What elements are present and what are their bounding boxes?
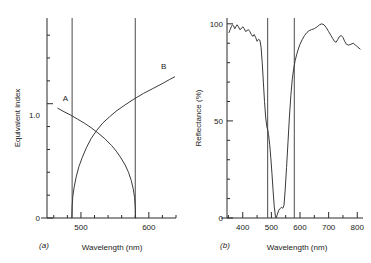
panel-a-ticks: 500600 [47, 35, 176, 232]
panel-b-ticks: 400500600700800050100 [210, 20, 365, 232]
x-tick-label: 500 [74, 223, 88, 232]
panel-b-axes [221, 18, 363, 218]
panel-b-vertical-lines [268, 18, 295, 218]
y-tick-label-0-a: 0 [36, 214, 41, 223]
x-tick-label: 800 [351, 223, 365, 232]
y-tick-label-1-a: 1.0 [29, 111, 41, 120]
panel-a-curves [58, 77, 175, 218]
panel-a-labels: AB [63, 62, 167, 103]
y-axis-title-b: Reflectance (%) [194, 89, 203, 146]
curve-annotation: B [161, 62, 166, 71]
panel-b-plot: 400500600700800050100 Wavelength (nm) Re… [185, 0, 371, 263]
y-axis-title-a: Equivalent index [13, 89, 22, 148]
panel-a-vertical-lines [72, 18, 135, 218]
figure-container: 500600 AB 0 1.0 Wavelength (nm) Equivale… [0, 0, 371, 263]
curve-A [58, 108, 136, 218]
panel-label-b: (b) [220, 241, 230, 250]
curve-annotation: A [63, 94, 69, 103]
x-tick-label: 600 [293, 223, 307, 232]
y-tick-label: 50 [214, 117, 223, 126]
x-tick-label: 400 [236, 223, 250, 232]
x-axis-title-b: Wavelength (nm) [267, 243, 328, 252]
panel-b: 400500600700800050100 Wavelength (nm) Re… [185, 0, 371, 263]
x-tick-label: 500 [265, 223, 279, 232]
panel-a-plot: 500600 AB 0 1.0 Wavelength (nm) Equivale… [0, 0, 186, 263]
panel-label-a: (a) [39, 241, 49, 250]
curve-B [72, 77, 175, 218]
panel-a: 500600 AB 0 1.0 Wavelength (nm) Equivale… [0, 0, 186, 263]
y-tick-label: 0 [219, 214, 224, 223]
x-tick-label: 600 [142, 223, 156, 232]
x-tick-label: 700 [322, 223, 336, 232]
x-axis-title-a: Wavelength (nm) [82, 243, 143, 252]
y-tick-label: 100 [210, 20, 224, 29]
